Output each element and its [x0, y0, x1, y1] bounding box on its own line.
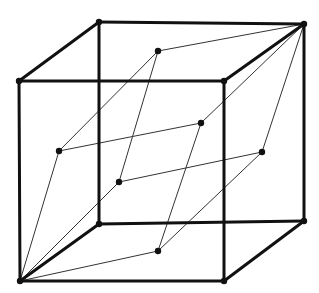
- vertex-dot-back_top_right: [301, 21, 307, 27]
- vertex-dots: [16, 19, 307, 284]
- vertex-dot-front_bottom_right: [221, 278, 227, 284]
- cube-edge-front_top_left-front_bottom_left: [19, 81, 20, 281]
- vertex-dot-p3: [56, 148, 62, 154]
- vertex-dot-back_bottom_left: [96, 221, 102, 227]
- inner-edge-p4-p6: [158, 152, 262, 251]
- vertex-dot-p2: [198, 120, 204, 126]
- vertex-dot-p6: [155, 248, 161, 254]
- cube-rhombohedron-diagram: [0, 0, 319, 293]
- cube-edge-back_top_right-front_top_right: [224, 24, 304, 81]
- vertex-dot-back_top_left: [96, 19, 102, 25]
- vertex-dot-front_bottom_left: [17, 278, 23, 284]
- vertex-dot-front_top_left: [16, 78, 22, 84]
- vertex-dot-p4: [259, 149, 265, 155]
- cube-edge-back_bottom_right-front_bottom_right: [224, 221, 304, 281]
- cube-edge-back_top_left-front_top_left: [19, 22, 99, 81]
- vertex-dot-back_bottom_right: [301, 218, 307, 224]
- cube-edge-back_bottom_left-back_bottom_right: [99, 221, 304, 224]
- inner-edge-back_top_right-p2: [201, 24, 304, 123]
- inner-edge-back_top_right-p4: [262, 24, 304, 152]
- inner-edge-p2-p6: [158, 123, 201, 251]
- vertex-dot-front_top_right: [221, 78, 227, 84]
- vertex-dot-p5: [116, 179, 122, 185]
- inner-edge-p4-p5: [119, 152, 262, 182]
- cube-edge-back_top_left-back_top_right: [99, 22, 304, 24]
- inner-edge-back_top_right-p1: [158, 24, 304, 51]
- vertex-dot-p1: [155, 48, 161, 54]
